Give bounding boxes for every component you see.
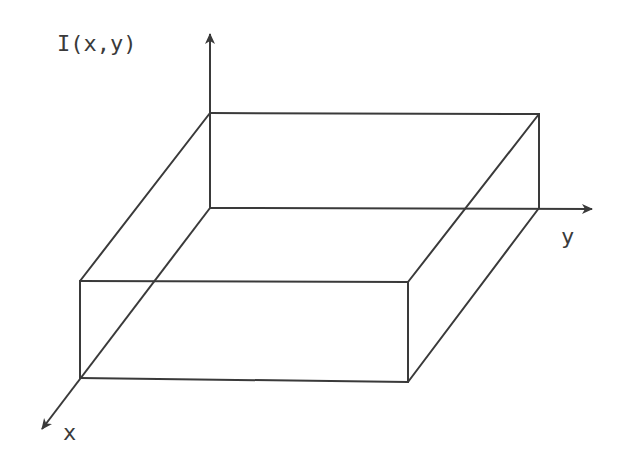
x-axis	[42, 208, 210, 429]
box-vertical-edges	[80, 114, 539, 382]
intensity-box-diagram	[0, 0, 629, 464]
z-axis-label: I(x,y)	[57, 33, 136, 55]
y-axis	[210, 208, 592, 209]
box-bottom-face	[80, 208, 539, 382]
box-top-face	[80, 113, 539, 282]
x-axis-label: x	[63, 422, 76, 444]
y-axis-label: y	[561, 226, 574, 248]
